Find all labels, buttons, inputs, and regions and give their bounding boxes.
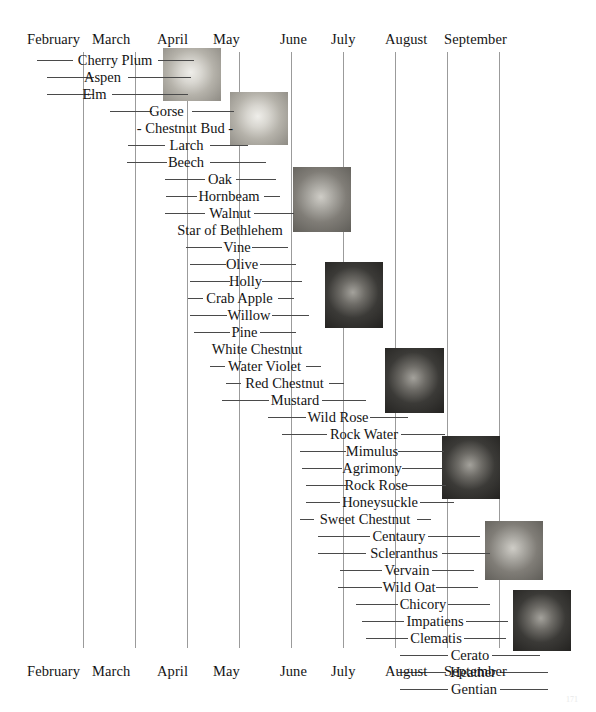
- top-month-april: April: [157, 30, 188, 48]
- period-bar-right: [236, 179, 276, 180]
- remedy-row: Impatiens: [0, 613, 596, 630]
- period-bar-left: [165, 179, 205, 180]
- remedy-label: Willow: [224, 306, 274, 324]
- remedy-row: Aspen: [0, 69, 596, 86]
- remedy-label: Red Chestnut: [238, 374, 331, 392]
- bottom-month-march: March: [92, 662, 130, 680]
- period-bar-left: [222, 400, 269, 401]
- bottom-month-february: February: [27, 662, 80, 680]
- remedy-row: Agrimony: [0, 460, 596, 477]
- remedy-row: Gorse: [0, 103, 596, 120]
- period-bar-right: [192, 111, 234, 112]
- period-bar-left: [190, 315, 227, 316]
- period-bar-right: [401, 434, 445, 435]
- top-month-may: May: [213, 30, 240, 48]
- period-bar-right: [254, 213, 294, 214]
- period-bar-right: [428, 536, 480, 537]
- remedy-label: Beech: [162, 153, 210, 171]
- remedy-label: Walnut: [204, 204, 256, 222]
- remedy-row: Wild Rose: [0, 409, 596, 426]
- bottom-month-july: July: [331, 662, 356, 680]
- period-bar-left: [400, 689, 448, 690]
- remedy-row: Beech: [0, 154, 596, 171]
- period-bar-left: [190, 264, 226, 265]
- remedy-label: Elm: [78, 85, 111, 103]
- remedy-label: Holly: [226, 272, 265, 290]
- remedy-row: Oak: [0, 171, 596, 188]
- period-bar-right: [417, 519, 431, 520]
- remedy-label: Scleranthus: [364, 544, 444, 562]
- remedy-label: Clematis: [406, 629, 466, 647]
- period-bar-left: [268, 417, 306, 418]
- period-bar-right: [464, 638, 506, 639]
- period-bar-right: [329, 383, 344, 384]
- page-number: 171: [566, 695, 578, 704]
- period-bar-left: [190, 281, 230, 282]
- remedy-label: Pine: [228, 323, 261, 341]
- period-bar-right: [158, 60, 194, 61]
- remedy-row: Water Violet: [0, 358, 596, 375]
- period-bar-right: [436, 587, 478, 588]
- period-bar-left: [340, 570, 382, 571]
- remedy-label: Larch: [164, 136, 209, 154]
- month-axis-bottom: FebruaryMarchAprilMayJuneJulyAugustSepte…: [0, 662, 596, 684]
- period-bar-right: [322, 400, 366, 401]
- remedy-label: Honeysuckle: [338, 493, 422, 511]
- bottom-month-may: May: [213, 662, 240, 680]
- period-bar-left: [338, 587, 382, 588]
- bottom-month-april: April: [157, 662, 188, 680]
- top-month-august: August: [385, 30, 428, 48]
- period-bar-left: [165, 213, 205, 214]
- period-bar-right: [272, 315, 309, 316]
- remedy-row: Centaury: [0, 528, 596, 545]
- period-bar-right: [260, 332, 296, 333]
- period-bar-right: [402, 468, 442, 469]
- remedy-label: Rock Water: [325, 425, 403, 443]
- period-bar-right: [264, 196, 280, 197]
- remedy-row: Scleranthus: [0, 545, 596, 562]
- period-bar-left: [186, 247, 222, 248]
- remedy-row: Elm: [0, 86, 596, 103]
- period-bar-right: [448, 604, 490, 605]
- remedy-row: Holly: [0, 273, 596, 290]
- remedy-label: Olive: [222, 255, 262, 273]
- remedy-row: Cherry Plum: [0, 52, 596, 69]
- period-bar-left: [356, 604, 398, 605]
- top-month-september: September: [444, 30, 507, 48]
- bottom-month-august: August: [385, 662, 428, 680]
- period-bar-right: [492, 655, 540, 656]
- remedy-row: Rock Water: [0, 426, 596, 443]
- period-bar-left: [366, 638, 408, 639]
- remedy-label: Wild Rose: [304, 408, 372, 426]
- remedy-row: Larch: [0, 137, 596, 154]
- remedy-row: - Chestnut Bud -: [0, 120, 596, 137]
- remedy-row: Wild Oat: [0, 579, 596, 596]
- remedy-row: Pine: [0, 324, 596, 341]
- remedy-row: Sweet Chestnut: [0, 511, 596, 528]
- remedy-row: Rock Rose: [0, 477, 596, 494]
- period-bar-right: [432, 570, 474, 571]
- remedy-row: Olive: [0, 256, 596, 273]
- top-month-march: March: [92, 30, 130, 48]
- remedy-row: Crab Apple: [0, 290, 596, 307]
- period-bar-right: [252, 247, 288, 248]
- period-bar-right: [260, 264, 296, 265]
- remedy-row: Star of Bethlehem: [0, 222, 596, 239]
- remedy-label: Rock Rose: [344, 476, 408, 494]
- remedy-row: Vervain: [0, 562, 596, 579]
- remedy-row: Walnut: [0, 205, 596, 222]
- period-bar-right: [210, 162, 266, 163]
- period-bar-left: [362, 621, 404, 622]
- flowering-calendar-chart: FebruaryMarchAprilMayJuneJulyAugustSepte…: [0, 0, 596, 712]
- remedy-label: Sweet Chestnut: [312, 510, 418, 528]
- period-bar-left: [37, 60, 73, 61]
- remedy-label: Mustard: [266, 391, 324, 409]
- remedy-row: Clematis: [0, 630, 596, 647]
- remedy-label: Vervain: [380, 561, 434, 579]
- period-bar-right: [278, 298, 294, 299]
- period-bar-left: [194, 332, 230, 333]
- bottom-month-september: September: [444, 662, 507, 680]
- top-month-february: February: [27, 30, 80, 48]
- remedy-label: Vine: [220, 238, 254, 256]
- remedy-label: Wild Oat: [380, 578, 438, 596]
